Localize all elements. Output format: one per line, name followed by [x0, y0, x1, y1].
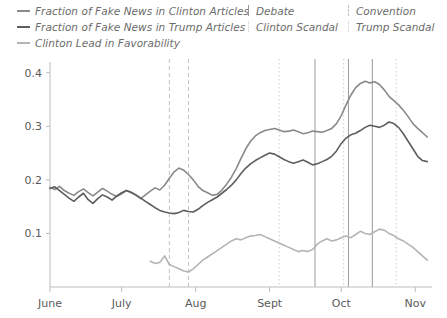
series-line-clinton-favorability	[150, 229, 427, 272]
y-tick-label-1: 0.2	[25, 174, 43, 187]
y-tick-label-2: 0.3	[25, 120, 43, 133]
event-lines-group	[169, 59, 396, 287]
x-tick-label-3: Sept	[257, 297, 283, 310]
x-tick-label-2: Aug	[185, 297, 206, 310]
x-tick-label-0: June	[37, 297, 62, 310]
y-axis-ticks: 0.10.20.30.4	[25, 67, 51, 241]
chart-figure: Fraction of Fake News in Clinton Article…	[0, 0, 447, 318]
y-tick-label-0: 0.1	[25, 227, 43, 240]
series-line-clinton-fake-news	[50, 81, 427, 198]
x-tick-label-5: Nov	[405, 297, 427, 310]
plot-area: 0.10.20.30.4 JuneJulyAugSeptOctNov	[0, 0, 447, 318]
x-tick-label-1: July	[111, 297, 132, 310]
y-tick-label-3: 0.4	[25, 67, 43, 80]
x-tick-label-4: Oct	[332, 297, 352, 310]
x-axis-ticks: JuneJulyAugSeptOctNov	[37, 287, 426, 310]
series-group	[50, 81, 427, 272]
series-line-trump-fake-news	[50, 122, 427, 214]
